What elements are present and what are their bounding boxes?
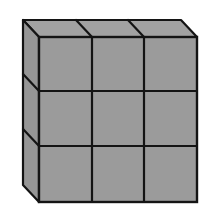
front-face (39, 37, 197, 202)
top-face (23, 20, 197, 37)
left-side-face (23, 20, 39, 202)
cube-wall-diagram: 3x3 wall of cubes drawn in oblique proje… (0, 0, 210, 208)
cube-wall-figure (0, 0, 210, 208)
